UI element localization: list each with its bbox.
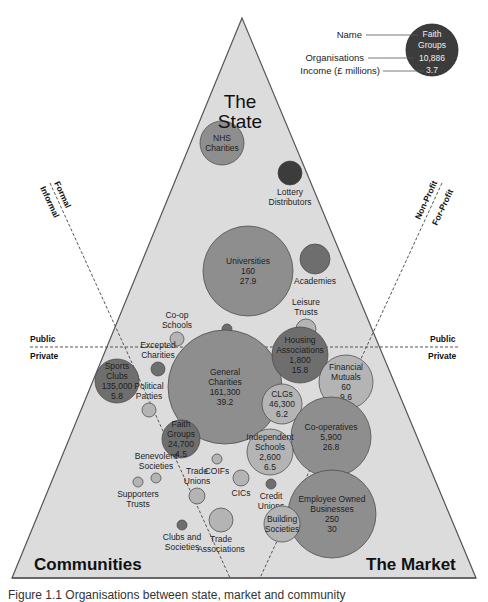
bubble-label: Charities xyxy=(208,377,242,387)
bubble-label: Distributors xyxy=(269,197,312,207)
bubble-label: General xyxy=(210,367,240,377)
label-private-right: Private xyxy=(428,351,457,361)
bubble-label: 1,800 xyxy=(289,355,311,365)
bubble-label: Societies xyxy=(165,542,200,552)
figure-caption: Figure 1.1 Organisations between state, … xyxy=(8,588,346,602)
bubble-label: Clubs and xyxy=(163,532,202,542)
bubble-label: Financial xyxy=(329,362,363,372)
bubble-label: Societies xyxy=(265,524,300,534)
bubble-circle xyxy=(233,470,249,486)
bubble-circle xyxy=(212,454,222,464)
bubble-circle xyxy=(151,362,165,376)
bubble-label: NHS xyxy=(213,133,231,143)
bubble-circle xyxy=(278,161,302,185)
bubble-label: 46,300 xyxy=(269,399,295,409)
bubble-label: Faith xyxy=(172,419,191,429)
bubble-label: Leisure xyxy=(292,297,320,307)
bubble-circle xyxy=(300,244,330,274)
bubble-label: 5.8 xyxy=(111,391,123,401)
bubble-label: 15.8 xyxy=(292,365,309,375)
legend-name-label: Name xyxy=(337,29,362,40)
bubble-label: 160 xyxy=(241,266,255,276)
bubble-circle xyxy=(133,477,143,487)
bubble-label: Universities xyxy=(226,256,270,266)
corner-state-line1: The xyxy=(224,91,257,112)
bubble-circle xyxy=(151,473,161,483)
bubble-label: Schools xyxy=(255,442,285,452)
bubble-universities: Universities16027.9 xyxy=(203,226,293,316)
bubble-circle xyxy=(266,479,276,489)
bubble-label: Sports xyxy=(105,361,130,371)
bubble-label: Charities xyxy=(141,350,175,360)
bubble-employee-owned-businesses: Employee OwnedBusinesses25030 xyxy=(288,470,376,558)
bubble-label: Unions xyxy=(184,476,210,486)
bubble-circle xyxy=(189,488,205,504)
bubble-label: 6.5 xyxy=(264,462,276,472)
bubble-label: Benevolent xyxy=(135,451,178,461)
bubble-label: Schools xyxy=(162,320,192,330)
bubble-sports-clubs: SportsClubs135,0005.8 xyxy=(95,359,139,403)
bubble-label: CICs xyxy=(232,488,251,498)
corner-state-line2: State xyxy=(218,111,262,132)
bubble-label: Credit xyxy=(260,491,283,501)
legend: Faith Groups 10,886 3.7 Name Organisatio… xyxy=(300,24,458,76)
corner-market: The Market xyxy=(366,555,456,574)
bubble-label: 6.2 xyxy=(276,409,288,419)
bubble-circle xyxy=(209,508,233,532)
bubble-label: Co-operatives xyxy=(305,422,358,432)
bubble-label: Supporters xyxy=(117,489,159,499)
bubble-label: Associations xyxy=(197,544,245,554)
legend-example-orgs: 10,886 xyxy=(419,53,445,63)
bubble-building-societies: BuildingSocieties xyxy=(264,506,300,542)
legend-example-income: 3.7 xyxy=(426,65,438,75)
bubble-label: CLGs xyxy=(271,389,293,399)
bubble-label: Clubs xyxy=(106,371,128,381)
bubble-label: 60 xyxy=(341,382,351,392)
bubble-label: Businesses xyxy=(310,504,353,514)
bubble-label: Excepted xyxy=(140,340,176,350)
bubble-label: 135,000 xyxy=(102,381,133,391)
bubble-label: 161,300 xyxy=(210,387,241,397)
label-private-left: Private xyxy=(30,351,59,361)
label-public-right: Public xyxy=(430,334,456,344)
bubble-label: Mutuals xyxy=(331,372,361,382)
bubble-label: Trade xyxy=(210,534,232,544)
bubble-co-operatives: Co-operatives5,90026.8 xyxy=(291,397,371,477)
bubble-housing-associations: HousingAssociations1,80015.8 xyxy=(272,327,328,383)
bubble-label: Trusts xyxy=(126,499,149,509)
legend-organisations-label: Organisations xyxy=(305,52,364,63)
bubble-label: Housing xyxy=(284,335,315,345)
label-public-left: Public xyxy=(30,334,56,344)
bubble-label: 27.9 xyxy=(240,276,257,286)
corner-communities: Communities xyxy=(34,555,142,574)
bubble-label: Lottery xyxy=(277,187,304,197)
bubble-label: 24,700 xyxy=(168,439,194,449)
bubble-label: Parties xyxy=(136,391,162,401)
bubble-circle xyxy=(177,520,187,530)
bubble-label: 2,600 xyxy=(259,452,281,462)
legend-example-name-line1: Faith xyxy=(423,29,442,39)
bubble-label: Charities xyxy=(205,143,239,153)
bubble-label: Political xyxy=(134,381,163,391)
bubble-label: Trade xyxy=(186,466,208,476)
bubble-circle xyxy=(142,403,156,417)
bubble-label: 5,900 xyxy=(320,432,342,442)
bubble-label: Groups xyxy=(167,429,195,439)
bubble-label: Independent xyxy=(246,432,294,442)
legend-income-label: Income (£ millions) xyxy=(300,65,380,76)
bubble-label: Associations xyxy=(276,345,324,355)
bubble-label: 39.2 xyxy=(217,397,234,407)
legend-example-name-line2: Groups xyxy=(418,40,446,50)
bubble-label: 250 xyxy=(325,514,339,524)
bubble-label: Societies xyxy=(139,461,174,471)
bubble-label: 30 xyxy=(327,524,337,534)
bubble-label: Employee Owned xyxy=(298,494,365,504)
bubble-label: 26.8 xyxy=(323,442,340,452)
bubble-label: Co-op xyxy=(165,310,188,320)
bubble-label: Building xyxy=(267,514,298,524)
bubble-label: Academies xyxy=(294,276,336,286)
bubble-label: COIFs xyxy=(205,466,230,476)
bubble-label: Trusts xyxy=(294,307,317,317)
